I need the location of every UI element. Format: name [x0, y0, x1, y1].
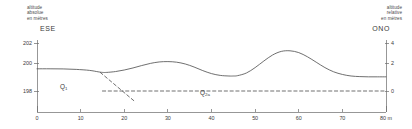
series-path-2 [100, 72, 135, 101]
y-tick-right-2: 2 [391, 60, 405, 66]
y-tick-left-202: 202 [16, 40, 32, 46]
x-tick-40: 40 [200, 115, 224, 121]
x-tick-70: 70 [330, 115, 354, 121]
unit-label-q1: Q1 [60, 83, 67, 90]
cross-section-figure: altitude absolue en mètres altitude rela… [0, 0, 412, 129]
y-tick-right-4: 4 [391, 40, 405, 46]
x-tick-30: 30 [156, 115, 180, 121]
axes-group [34, 40, 389, 112]
x-tick-60: 60 [287, 115, 311, 121]
y-tick-right-0: 0 [391, 88, 405, 94]
profile-plot [0, 0, 412, 129]
x-tick-80: 80 m [374, 115, 398, 121]
unit-q2a-subscript: 2a [205, 92, 210, 97]
series-path-0 [37, 51, 386, 77]
x-tick-50: 50 [243, 115, 267, 121]
unit-label-q2a: Q2a [200, 89, 210, 96]
x-tick-0: 0 [25, 115, 49, 121]
x-tick-20: 20 [112, 115, 136, 121]
y-tick-left-200: 200 [16, 60, 32, 66]
data-series-group [37, 51, 386, 102]
y-tick-left-198: 198 [16, 88, 32, 94]
x-tick-10: 10 [69, 115, 93, 121]
